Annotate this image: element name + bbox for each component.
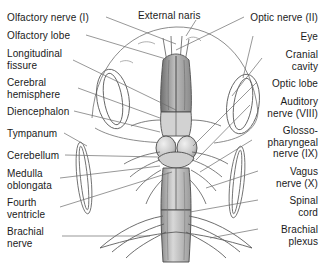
- label-brachial-plexus: Brachial plexus: [281, 224, 318, 247]
- label-spinal-cord: Spinal cord: [290, 195, 318, 218]
- anatomy-figure: External naris Olfactory nerve (I) Olfac…: [0, 0, 325, 267]
- label-glossopharyngeal-nerve-ix: Glosso- pharyngeal nerve (IX): [268, 125, 318, 160]
- label-diencephalon: Diencephalon: [7, 106, 69, 118]
- label-tympanum: Tympanum: [7, 128, 57, 140]
- label-optic-nerve-ii: Optic nerve (II): [250, 12, 318, 24]
- label-optic-lobe: Optic lobe: [272, 78, 318, 90]
- brain-body: [156, 54, 197, 262]
- label-cerebellum: Cerebellum: [7, 150, 59, 162]
- label-external-naris: External naris: [138, 10, 201, 22]
- label-vagus-nerve-x: Vagus nerve (X): [276, 166, 318, 189]
- label-cerebral-hemisphere: Cerebral hemisphere: [7, 77, 60, 100]
- label-eye: Eye: [300, 31, 318, 43]
- label-auditory-nerve-viii: Auditory nerve (VIII): [267, 96, 318, 119]
- eye-left-outline: [93, 67, 134, 131]
- label-longitudinal-fissure: Longitudinal fissure: [7, 48, 62, 71]
- tympanum-left: [73, 141, 94, 214]
- tympanum-right: [226, 145, 247, 218]
- label-medulla-oblongata: Medulla oblongata: [7, 168, 52, 191]
- label-olfactory-nerve-i: Olfactory nerve (I): [7, 12, 89, 24]
- label-brachial-nerve: Brachial nerve: [7, 226, 44, 249]
- label-olfactory-lobe: Olfactory lobe: [7, 30, 70, 42]
- label-fourth-ventricle: Fourth ventricle: [7, 197, 45, 220]
- label-cranial-cavity: Cranial cavity: [286, 49, 318, 72]
